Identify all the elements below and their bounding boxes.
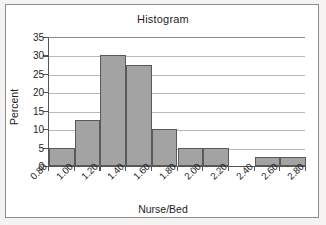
figure-background: Histogram Percent 051015202530350.801.00… (0, 0, 326, 225)
histogram-bar (203, 148, 229, 166)
x-axis-title: Nurse/Bed (0, 203, 326, 215)
chart-title: Histogram (0, 13, 326, 25)
y-axis-title: Percent (8, 62, 20, 152)
histogram-bar (100, 55, 126, 166)
histogram-bar (126, 65, 152, 166)
gridline (49, 56, 305, 57)
gridline (49, 93, 305, 94)
histogram-bar (152, 129, 178, 166)
y-axis-tick-label: 5 (38, 142, 44, 153)
gridline (49, 112, 305, 113)
histogram-bar (49, 148, 75, 166)
y-axis-tick-label: 15 (33, 105, 44, 116)
gridline (49, 75, 305, 76)
histogram-bar (75, 120, 101, 166)
y-axis-tick-label: 25 (33, 68, 44, 79)
y-axis-tick-label: 10 (33, 124, 44, 135)
y-axis-tick-label: 30 (33, 50, 44, 61)
y-axis-tick-label: 35 (33, 32, 44, 43)
y-axis-tick-label: 20 (33, 87, 44, 98)
plot-area (48, 37, 305, 166)
histogram-bar (178, 148, 204, 166)
